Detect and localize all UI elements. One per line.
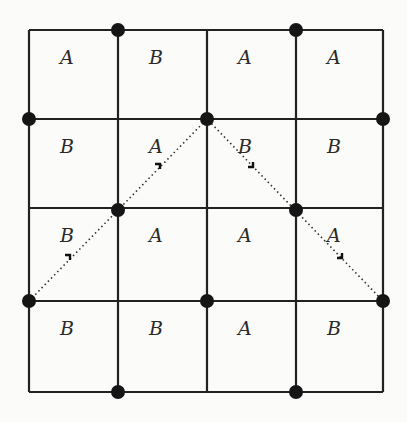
cell-label: A <box>236 46 252 68</box>
cell-label: A <box>236 224 252 246</box>
vertex-dot <box>289 385 303 399</box>
right-angle-marker-icon <box>65 255 70 260</box>
cell-label: B <box>148 46 163 68</box>
cell-label: A <box>325 46 341 68</box>
vertex-dot <box>111 385 125 399</box>
cell-label: B <box>237 135 252 157</box>
cell-label: A <box>147 224 163 246</box>
cell-label: B <box>59 224 74 246</box>
vertex-dot <box>376 112 390 126</box>
vertex-dot <box>111 203 125 217</box>
cell-labels: ABAABABBBAAABBAB <box>58 46 341 339</box>
cell-label: B <box>326 317 341 339</box>
cell-label: B <box>326 135 341 157</box>
cell-label: B <box>148 317 163 339</box>
vertex-dot <box>289 23 303 37</box>
cell-label: B <box>59 317 74 339</box>
cell-label: A <box>58 46 74 68</box>
vertex-dot <box>111 23 125 37</box>
vertex-dot <box>200 112 214 126</box>
cell-label: A <box>325 224 341 246</box>
vertex-dot <box>289 203 303 217</box>
vertex-dot <box>376 294 390 308</box>
cell-label: A <box>147 135 163 157</box>
cell-label: B <box>59 135 74 157</box>
vertex-dot <box>22 112 36 126</box>
right-angle-marker-icon <box>155 164 160 169</box>
vertex-dot <box>22 294 36 308</box>
vertex-dot <box>200 294 214 308</box>
cell-label: A <box>236 317 252 339</box>
tiling-diagram: ABAABABBBAAABBAB <box>0 0 407 422</box>
